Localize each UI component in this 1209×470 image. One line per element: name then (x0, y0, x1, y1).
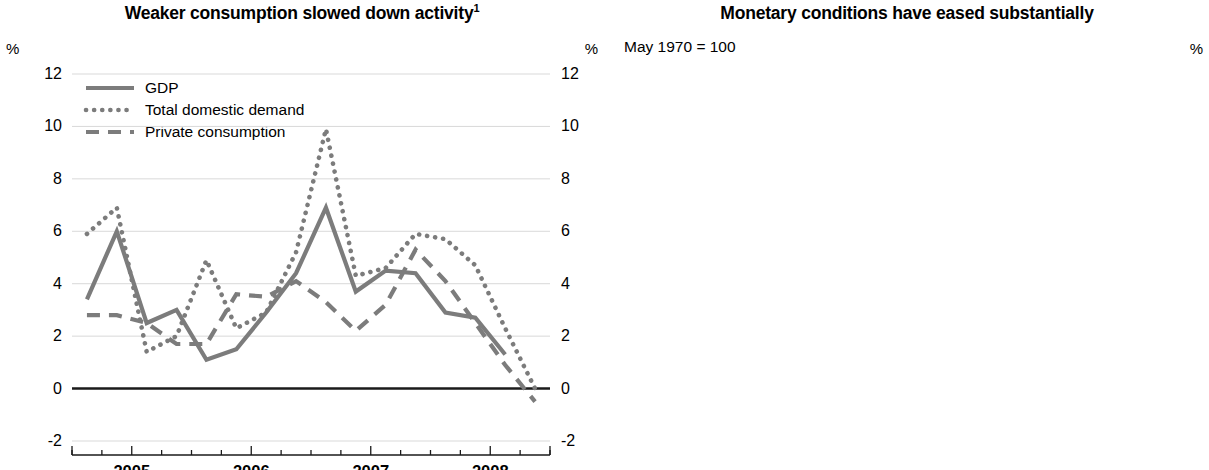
panel-title-left-text: Weaker consumption slowed down activity (125, 3, 474, 23)
panel-title-right: Monetary conditions have eased substanti… (605, 2, 1209, 24)
y-axis-right-tick-12: 12 (561, 65, 579, 83)
panel-title-right-text: Monetary conditions have eased substanti… (720, 3, 1093, 23)
y-axis-left-tick-2: 2 (53, 327, 62, 345)
y-axis-left-tick-8: 8 (53, 170, 62, 188)
y-axis-right-tick-10: 10 (561, 117, 579, 135)
y-axis-left-tick-6: 6 (53, 222, 62, 240)
unit-left-axis-left: % (6, 40, 19, 57)
chart-panel-right: Monetary conditions have eased substanti… (605, 0, 1209, 470)
axis-layer-left: 2005200620072008 (72, 74, 550, 470)
y-axis-right-tick-4: 4 (561, 275, 570, 293)
x-axis-label-2006: 2006 (233, 462, 270, 470)
y-axis-left-tick--2: -2 (48, 432, 62, 450)
x-axis-label-2008: 2008 (472, 462, 509, 470)
plot-area-left: 2005200620072008121086420-2121086420-2 (72, 74, 550, 441)
figure-container: Weaker consumption slowed down activity1… (0, 0, 1209, 470)
x-axis-label-2007: 2007 (352, 462, 389, 470)
chart-panel-left: Weaker consumption slowed down activity1… (0, 0, 604, 470)
subcaption-right: May 1970 = 100 (624, 38, 736, 56)
y-axis-right-tick-6: 6 (561, 222, 570, 240)
y-axis-left-tick-12: 12 (44, 65, 62, 83)
y-axis-right-tick-8: 8 (561, 170, 570, 188)
y-axis-right-tick--2: -2 (561, 432, 575, 450)
y-axis-left-tick-4: 4 (53, 275, 62, 293)
panel-title-left: Weaker consumption slowed down activity1 (0, 2, 604, 24)
y-axis-right-tick-2: 2 (561, 327, 570, 345)
y-axis-left-tick-0: 0 (53, 380, 62, 398)
unit-right-axis-right: % (1190, 40, 1203, 57)
x-axis-label-2005: 2005 (113, 462, 150, 470)
y-axis-right-tick-0: 0 (561, 380, 570, 398)
panel-title-left-footnote: 1 (473, 2, 479, 14)
y-axis-left-tick-10: 10 (44, 117, 62, 135)
unit-left-axis-right: % (585, 40, 598, 57)
